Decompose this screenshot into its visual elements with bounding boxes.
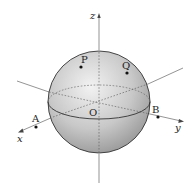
- label-z-axis: z: [89, 10, 96, 21]
- x-arrow-icon: [18, 129, 24, 133]
- label-B: B: [152, 104, 159, 115]
- label-P: P: [81, 54, 88, 65]
- point-A: [34, 125, 37, 128]
- label-A: A: [31, 113, 40, 124]
- z-arrow-icon: [97, 13, 100, 18]
- point-P: [79, 65, 82, 68]
- sphere-diagram: P Q A B O z y x: [0, 0, 193, 194]
- label-y-axis: y: [174, 122, 181, 133]
- y-axis-negative: [17, 81, 49, 92]
- label-origin: O: [89, 107, 97, 118]
- point-B: [156, 115, 159, 118]
- x-axis-negative: [148, 68, 183, 84]
- y-axis-positive: [150, 114, 181, 121]
- label-x-axis: x: [17, 133, 23, 144]
- point-Q: [125, 71, 128, 74]
- label-Q: Q: [122, 60, 130, 71]
